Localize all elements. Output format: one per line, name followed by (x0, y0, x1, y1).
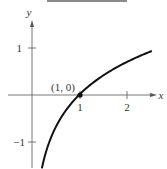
ln-curve (42, 51, 152, 168)
x-tick-label-2: 2 (124, 101, 130, 113)
point-label: (1, 0) (51, 81, 75, 94)
x-axis-arrow-icon (150, 93, 157, 97)
y-axis-label: y (26, 6, 32, 18)
x-axis-label: x (158, 89, 164, 101)
y-tick-label-1: 1 (17, 42, 23, 54)
point-1-0-marker (77, 92, 82, 97)
y-axis-arrow-icon (30, 20, 34, 27)
y-tick-label-neg1: −1 (13, 136, 25, 148)
x-tick-label-1: 1 (77, 101, 83, 113)
log-function-graph: y x 1 2 1 −1 (1, 0) (0, 0, 167, 169)
